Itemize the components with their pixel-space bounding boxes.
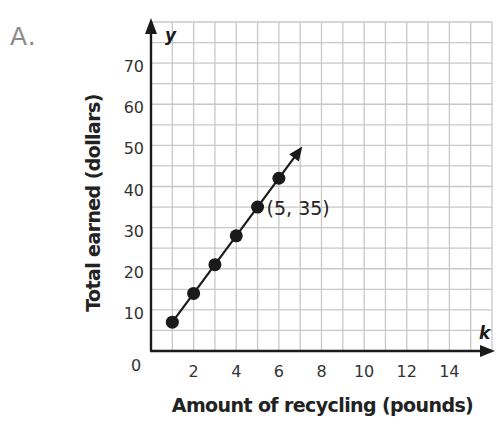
y-variable-label: y [165,25,177,45]
axes: yk [145,18,495,357]
y-tick-label: 50 [124,139,144,158]
y-tick-label: 10 [124,304,144,323]
data-point [208,258,221,271]
y-tick-label: 30 [124,222,144,241]
data-point [230,229,243,242]
annotations: (5, 35) [267,197,330,219]
x-tick-label: 8 [316,362,326,381]
y-axis-title: Total earned (dollars) [81,73,105,333]
x-tick-label: 6 [274,362,284,381]
x-axis-arrow-icon [480,345,495,357]
x-tick-label: 4 [231,362,241,381]
x-tick-label: 14 [439,362,459,381]
data-point [187,287,200,300]
x-axis-title: Amount of recycling (pounds) [150,394,495,416]
y-tick-label: 70 [124,57,144,76]
data-point [272,172,285,185]
data-series [166,147,303,329]
y-axis-arrow-icon [145,18,157,34]
y-tick-label: 20 [124,263,144,282]
x-tick-label: 10 [354,362,374,381]
x-tick-label: 2 [189,362,199,381]
x-tick-label: 12 [397,362,417,381]
y-tick-label: 40 [124,181,144,200]
y-tick-label: 60 [124,98,144,117]
tick-labels: 2468101214102030405060700 [124,57,460,381]
x-variable-label: k [479,323,492,343]
origin-label: 0 [131,356,141,375]
grid-lines [151,22,492,351]
point-annotation: (5, 35) [267,197,330,219]
data-point [166,316,179,329]
data-point [251,201,264,214]
line-chart: yk 2468101214102030405060700 (5, 35) [0,0,500,428]
